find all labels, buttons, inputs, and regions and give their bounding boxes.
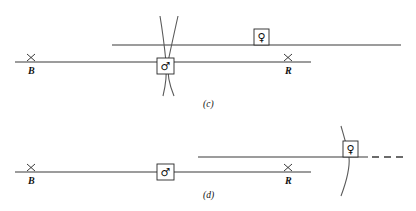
panel-c-mars-male-icon: ♂ xyxy=(158,61,173,72)
panel-c-caption: (c) xyxy=(203,100,214,110)
panel-c-worldline-right xyxy=(168,16,178,96)
panel-d-label-R: R xyxy=(285,176,292,186)
panel-c-label-B: B xyxy=(28,66,35,76)
panel-c-tick-R xyxy=(284,54,292,61)
panel-d-label-B: B xyxy=(28,176,35,186)
panel-c-group xyxy=(15,16,401,96)
panel-d-group xyxy=(15,126,404,196)
panel-d-tick-R xyxy=(284,164,292,171)
panel-d-mars-male-icon: ♂ xyxy=(158,167,173,178)
panel-c-worldline-left xyxy=(160,16,166,96)
figure-root: ♂ ♀ B R (c) ♂ ♀ B R (d) xyxy=(0,0,416,211)
panel-c-venus-female-icon: ♀ xyxy=(255,32,268,43)
panel-d-tick-B xyxy=(27,164,35,171)
panel-d-worldline-single xyxy=(341,126,349,196)
panel-c-label-R: R xyxy=(285,66,292,76)
panel-c-tick-B xyxy=(27,54,35,61)
panel-d-venus-female-icon: ♀ xyxy=(344,144,357,155)
panel-d-caption: (d) xyxy=(203,191,214,201)
